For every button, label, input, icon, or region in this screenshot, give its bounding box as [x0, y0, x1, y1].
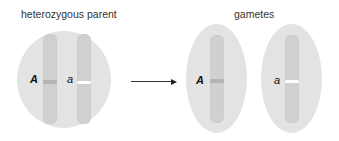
recessive-allele-band [77, 81, 91, 84]
gamete-cell-dominant: A [186, 24, 247, 133]
arrow-icon [131, 79, 177, 85]
parent-chromosome-dominant [43, 34, 57, 124]
dominant-allele-band [43, 80, 57, 84]
parent-cell: A a [17, 31, 111, 128]
recessive-allele-band [285, 80, 299, 83]
parent-allele-label-dominant: A [30, 73, 38, 85]
gametes-title: gametes [234, 8, 274, 20]
parent-allele-label-recessive: a [67, 73, 73, 85]
gamete-cell-recessive: a [261, 24, 322, 133]
gamete-allele-label-recessive: a [274, 74, 280, 86]
gamete-chromosome-recessive [285, 35, 299, 123]
gamete-allele-label-dominant: A [196, 74, 204, 86]
gamete-chromosome-dominant [210, 35, 224, 123]
parent-chromosome-recessive [77, 34, 91, 124]
dominant-allele-band [210, 79, 224, 83]
parent-title: heterozygous parent [21, 8, 117, 20]
